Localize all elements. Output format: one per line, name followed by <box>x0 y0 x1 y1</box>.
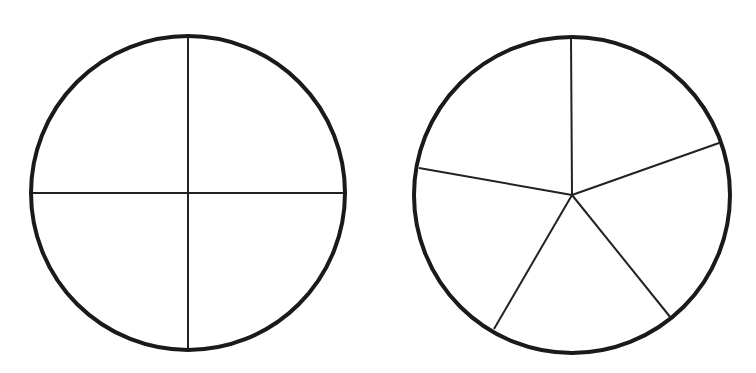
divider-line <box>572 143 719 195</box>
diagram-canvas <box>0 0 756 373</box>
divider-line <box>571 37 572 195</box>
divider-line <box>419 168 572 195</box>
fraction-circles-diagram <box>0 0 756 373</box>
circle-quarters <box>31 36 345 350</box>
divider-line <box>572 195 671 318</box>
divider-line <box>494 195 572 329</box>
circle-fifths <box>414 37 730 353</box>
